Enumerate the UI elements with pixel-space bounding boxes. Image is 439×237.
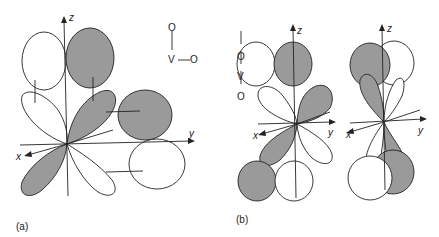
orbital-figure: z y x O V O (a) z y x z y x O V O (b): [0, 0, 439, 237]
axis-label-z: z: [69, 13, 74, 23]
molecule-b-bottom-o: O: [237, 92, 245, 102]
orbital-diagram: [0, 0, 439, 237]
panel-b-right-orbitals: [348, 41, 414, 200]
panel-a-orbitals: [21, 28, 185, 196]
axis-label-x-b2: x: [346, 130, 351, 140]
molecule-b-top-o: O: [237, 52, 245, 62]
axis-label-y: y: [189, 129, 194, 139]
panel-label-a: (a): [16, 222, 28, 232]
molecule-right-o: O: [190, 55, 198, 65]
axis-label-x: x: [16, 152, 21, 162]
panel-b-left-orbitals: [237, 42, 332, 201]
panel-label-b: (b): [236, 215, 248, 225]
axis-label-z-b1: z: [297, 26, 302, 36]
molecule-b-v: V: [237, 72, 244, 82]
axis-label-y-b1: y: [328, 128, 333, 138]
molecule-v: V: [168, 55, 175, 65]
axis-label-x-b1: x: [253, 131, 258, 141]
axis-label-z-b2: z: [387, 24, 392, 34]
molecule-top-o: O: [168, 23, 176, 33]
axis-label-y-b2: y: [418, 126, 423, 136]
